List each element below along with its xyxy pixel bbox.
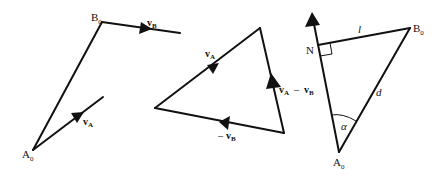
label-va-minus-vb: vA–vB xyxy=(279,84,314,97)
arrowhead-va-icon xyxy=(207,63,219,74)
label-l: l xyxy=(358,23,361,35)
velocity-triangle-diagram: vA vA–vB –vB xyxy=(155,28,314,143)
vector-diagram: A0 B0 vB vA vA vA–vB –vB A0 B0 N l d α xyxy=(0,0,447,175)
label-neg-vb: –vB xyxy=(217,130,236,143)
label-a0: A0 xyxy=(333,156,345,171)
arrowhead-up-icon xyxy=(305,12,320,27)
closest-approach-diagram: A0 B0 N l d α xyxy=(305,12,424,171)
arrowhead-neg-vb-icon xyxy=(219,116,230,130)
label-d: d xyxy=(376,86,382,98)
label-b0: B0 xyxy=(413,22,424,37)
label-alpha: α xyxy=(341,120,347,132)
triangle-edge-va xyxy=(155,28,260,108)
label-va: vA xyxy=(205,48,215,61)
line-a0-b0 xyxy=(33,22,102,150)
label-va: vA xyxy=(83,116,93,129)
relative-position-diagram: A0 B0 vB vA xyxy=(22,11,180,163)
label-b0: B0 xyxy=(91,11,102,26)
label-n: N xyxy=(306,44,314,56)
segment-n-b0 xyxy=(318,28,410,45)
segment-a0-b0 xyxy=(339,28,410,152)
